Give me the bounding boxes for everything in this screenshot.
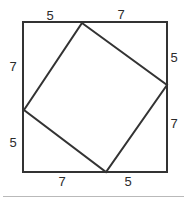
label-bottom-left-segment: 7 — [58, 175, 65, 188]
label-bottom-right-segment: 5 — [124, 175, 131, 188]
label-left-top-segment: 7 — [9, 60, 16, 73]
label-top-left-segment: 5 — [46, 9, 53, 22]
label-right-top-segment: 5 — [170, 51, 177, 64]
footer-divider — [3, 196, 184, 197]
geometry-canvas — [0, 0, 187, 204]
label-left-bottom-segment: 5 — [9, 136, 16, 149]
label-top-right-segment: 7 — [117, 8, 124, 21]
geometry-figure: 5 7 5 7 7 5 7 5 — [0, 0, 187, 204]
label-right-bottom-segment: 7 — [170, 117, 177, 130]
outer-square — [23, 22, 167, 172]
